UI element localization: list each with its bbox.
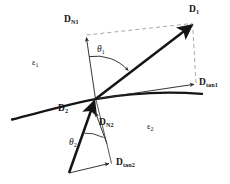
label-d-1-subscript: 1 [196,8,199,15]
label-epsilon-1-subscript: 1 [36,62,39,68]
label-epsilon-2: ε2 [147,122,154,131]
label-d-2-symbol: D [58,103,65,113]
label-d-n2-subscript: N2 [106,121,114,128]
label-d-1: D1 [189,5,199,15]
dielectric-interface-curve [12,93,202,120]
dashed-line-dtan1-to-d1 [193,24,196,84]
label-theta-2-subscript: 2 [74,141,77,148]
label-theta-2: θ2 [69,138,77,148]
vector-dn1 [86,38,95,100]
label-d-2-subscript: 2 [65,107,68,114]
label-d-n1-subscript: N1 [71,18,79,25]
label-d-tan1-symbol: D [199,77,206,87]
label-theta-1: θ1 [97,45,105,55]
label-theta-2-symbol: θ [69,137,74,147]
label-d-tan2: Dtan2 [116,158,135,168]
label-d-n1-symbol: D [64,14,71,24]
label-d-1-symbol: D [189,4,196,14]
vector-dtan2 [69,164,109,174]
label-d-n1: DN1 [64,15,79,25]
angle-arc-theta1 [89,56,128,70]
label-d-tan2-subscript: tan2 [123,161,135,168]
angle-arc-theta2 [83,133,104,138]
label-epsilon-1: ε1 [32,58,39,67]
construction-line-tan-lower [107,146,111,164]
label-d-2: D2 [58,104,68,114]
label-theta-1-symbol: θ [97,44,102,54]
label-d-tan2-symbol: D [116,157,123,167]
label-d-tan1-subscript: tan1 [206,81,218,88]
label-epsilon-2-subscript: 2 [151,126,154,132]
dashed-line-dn1-to-d1 [87,24,193,36]
diagram-canvas [0,0,230,184]
label-d-n2: DN2 [99,118,114,128]
label-d-n2-symbol: D [99,117,106,127]
label-theta-1-subscript: 1 [102,48,105,55]
figure-container: DN1 D1 Dtan1 D2 DN2 Dtan2 θ1 θ2 ε1 ε2 [0,0,230,184]
label-d-tan1: Dtan1 [199,78,218,88]
vector-d1 [96,26,192,100]
